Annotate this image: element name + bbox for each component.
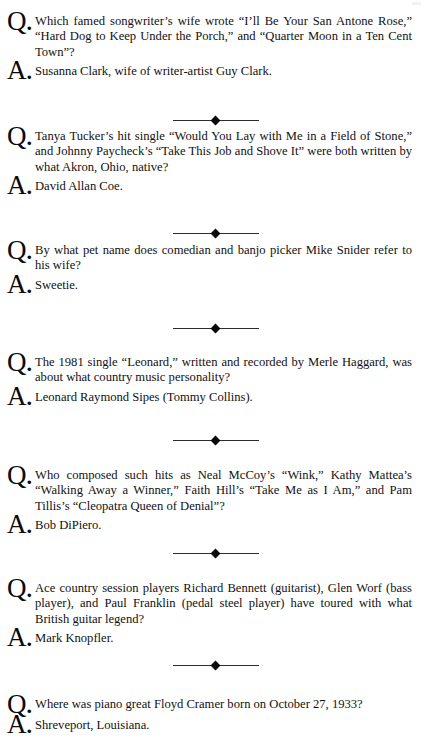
question-row: Q.By what pet name does comedian and ban… [0,243,412,274]
qa-block: Q.The 1981 single “Leonard,” written and… [0,355,431,407]
question-row: Q.Tanya Tucker’s hit single “Would You L… [0,129,412,175]
diamond-ornament-icon [211,436,221,446]
divider-rule [173,120,259,121]
divider-rule [173,328,259,329]
question-marker: Q. [7,349,32,376]
question-text: Which famed songwriter’s wife wrote “I’l… [35,14,412,60]
answer-row: A.Sweetie. [0,278,412,295]
question-marker: Q. [7,575,32,602]
divider-rule [173,665,259,666]
question-row: Q.Ace country session players Richard Be… [0,581,412,627]
answer-row: A.Bob DiPiero. [0,518,412,535]
scan-artifact-speck [412,2,421,5]
diamond-ornament-icon [211,229,221,239]
document-page: Q.Which famed songwriter’s wife wrote “I… [0,0,431,755]
answer-text: Sweetie. [35,278,412,293]
answer-text: David Allan Coe. [35,179,412,194]
answer-row: A.Susanna Clark, wife of writer-artist G… [0,64,412,81]
section-divider [0,440,431,441]
question-row: Q.Who composed such hits as Neal McCoy’s… [0,468,412,514]
question-text: The 1981 single “Leonard,” written and r… [35,355,412,386]
diamond-ornament-icon [211,324,221,334]
question-marker: Q. [7,237,32,264]
qa-block: Q.Who composed such hits as Neal McCoy’s… [0,468,431,535]
question-row: Q.Where was piano great Floyd Cramer bor… [0,697,412,714]
answer-marker: A. [7,172,32,199]
qa-block: Q.By what pet name does comedian and ban… [0,243,431,295]
question-text: Ace country session players Richard Benn… [35,581,412,627]
question-marker: Q. [7,8,32,35]
section-divider [0,233,431,234]
diamond-ornament-icon [211,661,221,671]
answer-row: A.David Allan Coe. [0,179,412,196]
answer-row: A.Mark Knopfler. [0,631,412,648]
section-divider [0,328,431,329]
answer-marker: A. [7,383,32,410]
answer-marker: A. [7,271,32,298]
question-marker: Q. [7,462,32,489]
diamond-ornament-icon [211,116,221,126]
question-row: Q.The 1981 single “Leonard,” written and… [0,355,412,386]
answer-text: Mark Knopfler. [35,631,412,646]
section-divider [0,553,431,554]
answer-row: A.Shreveport, Louisiana. [0,718,412,735]
answer-text: Bob DiPiero. [35,518,412,533]
question-text: Who composed such hits as Neal McCoy’s “… [35,468,412,514]
question-text: By what pet name does comedian and banjo… [35,243,412,274]
question-marker: Q. [7,123,32,150]
qa-block: Q.Tanya Tucker’s hit single “Would You L… [0,129,431,196]
divider-rule [173,440,259,441]
answer-marker: A. [7,511,32,538]
divider-rule [173,553,259,554]
answer-marker: A. [7,711,32,738]
answer-row: A.Leonard Raymond Sipes (Tommy Collins). [0,390,412,407]
section-divider [0,665,431,666]
question-text: Tanya Tucker’s hit single “Would You Lay… [35,129,412,175]
answer-text: Shreveport, Louisiana. [35,718,412,733]
diamond-ornament-icon [211,549,221,559]
divider-rule [173,233,259,234]
answer-marker: A. [7,57,32,84]
answer-text: Leonard Raymond Sipes (Tommy Collins). [35,390,412,405]
answer-marker: A. [7,624,32,651]
qa-block: Q.Ace country session players Richard Be… [0,581,431,648]
section-divider [0,120,431,121]
qa-block: Q.Which famed songwriter’s wife wrote “I… [0,14,431,81]
answer-text: Susanna Clark, wife of writer-artist Guy… [35,64,412,79]
question-row: Q.Which famed songwriter’s wife wrote “I… [0,14,412,60]
qa-block: Q.Where was piano great Floyd Cramer bor… [0,697,431,735]
question-text: Where was piano great Floyd Cramer born … [35,697,412,712]
